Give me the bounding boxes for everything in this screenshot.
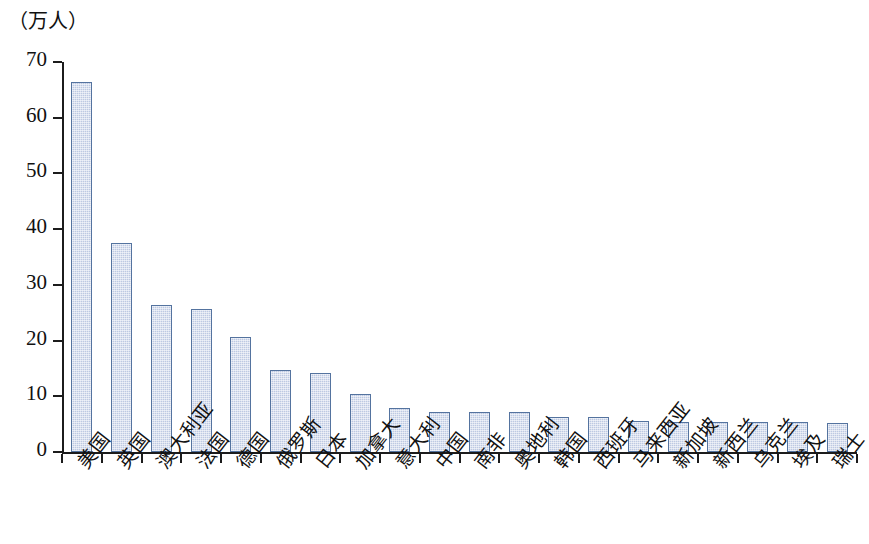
x-axis-tick <box>459 454 461 463</box>
x-axis-tick <box>61 454 63 463</box>
y-axis-tick: 60 <box>53 117 62 119</box>
y-axis-tick-label: 40 <box>26 216 47 237</box>
x-axis-tick <box>419 454 421 463</box>
x-axis-tick <box>379 454 381 463</box>
y-axis-tick: 50 <box>53 172 62 174</box>
x-axis-tick <box>498 454 500 463</box>
y-axis-tick-label: 30 <box>26 272 47 293</box>
bar <box>707 422 728 452</box>
bar <box>230 337 251 452</box>
bar <box>71 82 92 453</box>
x-axis-tick <box>220 454 222 463</box>
x-axis-tick <box>657 454 659 463</box>
x-axis-tick <box>538 454 540 463</box>
y-axis-line <box>62 62 64 454</box>
bar <box>747 422 768 452</box>
y-axis-tick: 30 <box>53 284 62 286</box>
bar <box>548 417 569 452</box>
bar <box>628 421 649 452</box>
bar <box>588 417 609 452</box>
x-axis-tick <box>618 454 620 463</box>
y-axis-tick-label: 0 <box>37 439 48 460</box>
x-axis-tick <box>856 454 858 463</box>
x-axis-tick <box>141 454 143 463</box>
x-axis-tick <box>697 454 699 463</box>
bar <box>509 412 530 452</box>
y-axis-tick-label: 20 <box>26 328 47 349</box>
x-axis-tick <box>777 454 779 463</box>
bar <box>787 422 808 452</box>
y-axis-tick: 40 <box>53 228 62 230</box>
x-axis-tick <box>260 454 262 463</box>
x-axis-tick <box>816 454 818 463</box>
y-axis-tick: 70 <box>53 61 62 63</box>
x-axis-tick <box>101 454 103 463</box>
x-axis-tick <box>339 454 341 463</box>
bar <box>469 412 490 452</box>
x-axis-tick <box>300 454 302 463</box>
y-axis-tick: 10 <box>53 395 62 397</box>
bar <box>350 394 371 452</box>
bar <box>668 422 689 452</box>
y-axis-tick: 20 <box>53 340 62 342</box>
plot-area: 010203040506070 <box>62 58 857 454</box>
bar <box>151 305 172 452</box>
y-axis-tick-label: 50 <box>26 160 47 181</box>
y-axis-tick: 0 <box>53 451 62 453</box>
x-axis-tick <box>578 454 580 463</box>
bar <box>429 412 450 452</box>
y-axis-tick-label: 60 <box>26 105 47 126</box>
bar <box>111 243 132 452</box>
bar <box>827 423 848 452</box>
x-axis-tick <box>737 454 739 463</box>
bar <box>389 408 410 452</box>
bar <box>191 309 212 452</box>
bar <box>310 373 331 452</box>
bar <box>270 370 291 452</box>
y-axis-tick-label: 70 <box>26 49 47 70</box>
y-axis-unit-label: （万人） <box>8 5 88 34</box>
y-axis-tick-label: 10 <box>26 383 47 404</box>
x-axis-tick <box>180 454 182 463</box>
